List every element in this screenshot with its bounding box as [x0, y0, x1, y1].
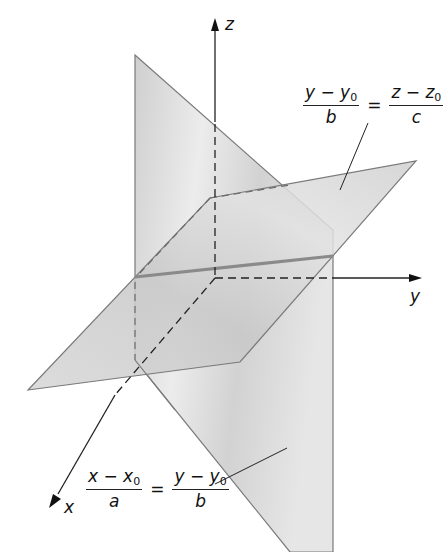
lower-right-denominator: b — [195, 490, 206, 511]
upper-plane-equation: y − y0 b = z − z0 c — [303, 82, 443, 127]
lower-left-denominator: a — [109, 490, 119, 511]
lower-right-fraction: y − y0 b — [172, 466, 228, 511]
upper-right-numerator: z − z — [391, 82, 434, 102]
z-axis-label: z — [225, 14, 234, 34]
upper-equals: = — [367, 95, 381, 115]
lower-left-numerator: x − x — [88, 466, 133, 486]
lower-right-numerator-sub: 0 — [220, 475, 227, 488]
lower-plane-equation: x − x0 a = y − y0 b — [86, 466, 229, 511]
upper-left-numerator: y − y — [305, 82, 350, 102]
x-axis-arrowhead — [49, 494, 61, 508]
y-axis-label: y — [410, 286, 420, 306]
upper-right-numerator-sub: 0 — [434, 91, 441, 104]
upper-left-denominator: b — [326, 106, 337, 127]
upper-left-numerator-sub: 0 — [350, 91, 357, 104]
upper-left-fraction: y − y0 b — [303, 82, 359, 127]
lower-left-fraction: x − x0 a — [86, 466, 142, 511]
y-axis-arrowhead — [409, 274, 422, 282]
x-axis-label: x — [64, 497, 74, 517]
upper-right-fraction: z − z0 c — [389, 82, 443, 127]
lower-right-numerator: y − y — [174, 466, 219, 486]
lower-equals: = — [150, 479, 164, 499]
slanted-plane — [28, 161, 416, 390]
z-axis-arrowhead — [211, 18, 219, 31]
lower-left-numerator-sub: 0 — [133, 475, 140, 488]
upper-right-denominator: c — [412, 106, 421, 127]
